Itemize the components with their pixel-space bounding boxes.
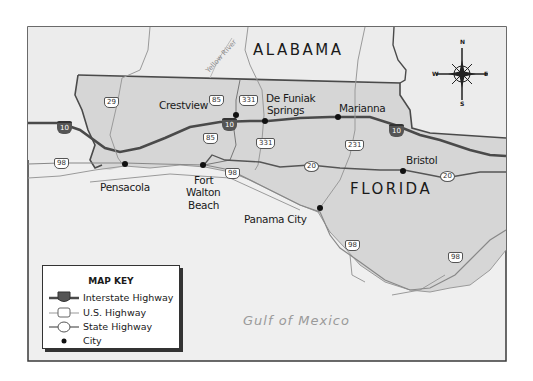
city-label-defuniak-1: De Funiak (266, 93, 315, 104)
us-231-shield-icon: 231 (345, 140, 364, 151)
sr-20-shield-icon: 20 (304, 161, 319, 172)
map-key-item-interstate: Interstate Highway (49, 291, 173, 304)
us-29-shield-icon: 29 (104, 97, 119, 108)
city-label-bristol: Bristol (406, 155, 437, 166)
us-331-shield-icon: 331 (256, 138, 275, 149)
us-98-shield-icon: 98 (225, 168, 240, 179)
map-key-label: Interstate Highway (83, 292, 173, 303)
us-85-shield-icon: 85 (209, 95, 224, 106)
us-331-shield-icon: 331 (239, 95, 258, 106)
city-dot-marianna (335, 114, 341, 120)
map-key-title: MAP KEY (43, 276, 179, 286)
state-label-florida: FLORIDA (350, 182, 432, 197)
state-shield-icon (49, 320, 79, 333)
map-key-item-state: State Highway (49, 320, 152, 333)
interstate-10-shield-icon: 10 (57, 121, 72, 134)
map-key-label: State Highway (83, 321, 152, 332)
compass-south: S (460, 101, 464, 107)
city-label-fort-walton-3: Beach (188, 200, 219, 211)
us-98-shield-icon: 98 (54, 158, 69, 169)
us-98-shield-icon: 98 (448, 252, 463, 263)
map-key-item-city: City (49, 334, 102, 347)
us-shield-icon (49, 306, 79, 319)
water-label-gulf: Gulf of Mexico (243, 314, 350, 327)
city-label-fort-walton-2: Walton (186, 187, 220, 198)
city-label-panama-city: Panama City (244, 214, 307, 225)
city-label-pensacola: Pensacola (100, 182, 150, 193)
sr-20-shield-icon: 20 (440, 171, 455, 182)
us-85-shield-icon: 85 (203, 133, 218, 144)
city-dot-fort-walton (200, 162, 206, 168)
map-key-label: U.S. Highway (83, 307, 146, 318)
city-dot-pensacola (122, 161, 128, 167)
city-label-fort-walton-1: Fort (194, 175, 213, 186)
city-dot-bristol (400, 168, 406, 174)
city-dot-panama-city (317, 205, 323, 211)
compass-east: E (484, 71, 488, 77)
city-dot-icon (49, 334, 79, 347)
state-label-alabama: ALABAMA (253, 43, 343, 58)
city-label-marianna: Marianna (339, 103, 386, 114)
interstate-10-shield-icon: 10 (389, 124, 404, 137)
interstate-10-shield-icon: 10 (222, 118, 237, 131)
map-key-label: City (83, 335, 102, 346)
us-98-shield-icon: 98 (345, 240, 360, 251)
city-dot-defuniak (262, 118, 268, 124)
city-label-defuniak-2: Springs (267, 105, 304, 116)
interstate-shield-icon (49, 291, 79, 304)
city-label-crestview: Crestview (159, 100, 208, 111)
map-key-item-us: U.S. Highway (49, 306, 146, 319)
compass-north: N (460, 39, 465, 45)
map-key: MAP KEY Interstate Highway U.S. Highway … (42, 265, 180, 349)
compass-west: W (432, 71, 439, 77)
